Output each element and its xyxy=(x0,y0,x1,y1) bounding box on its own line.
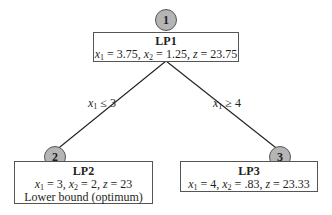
node-lp1-values: x1 = 3.75, x2 = 1.25, z = 23.75 xyxy=(94,48,238,61)
node-lp1-box: LP1 x1 = 3.75, x2 = 1.25, z = 23.75 xyxy=(93,32,239,62)
edge-label-right: x1 ≥ 4 xyxy=(213,96,241,111)
node-lp3-box: LP3 x1 = 4, x2 = .83, z = 23.33 xyxy=(180,161,318,192)
node-lp2-note: Lower bound (optimum) xyxy=(15,191,152,204)
node-lp3-values: x1 = 4, x2 = .83, z = 23.33 xyxy=(181,178,317,191)
node-lp2-box: LP2 x1 = 3, x2 = 2, z = 23 Lower bound (… xyxy=(14,161,153,204)
edge-label-left: x1 ≤ 3 xyxy=(88,96,116,111)
node-1-number: 1 xyxy=(163,13,169,28)
node-1-circle: 1 xyxy=(155,9,177,31)
